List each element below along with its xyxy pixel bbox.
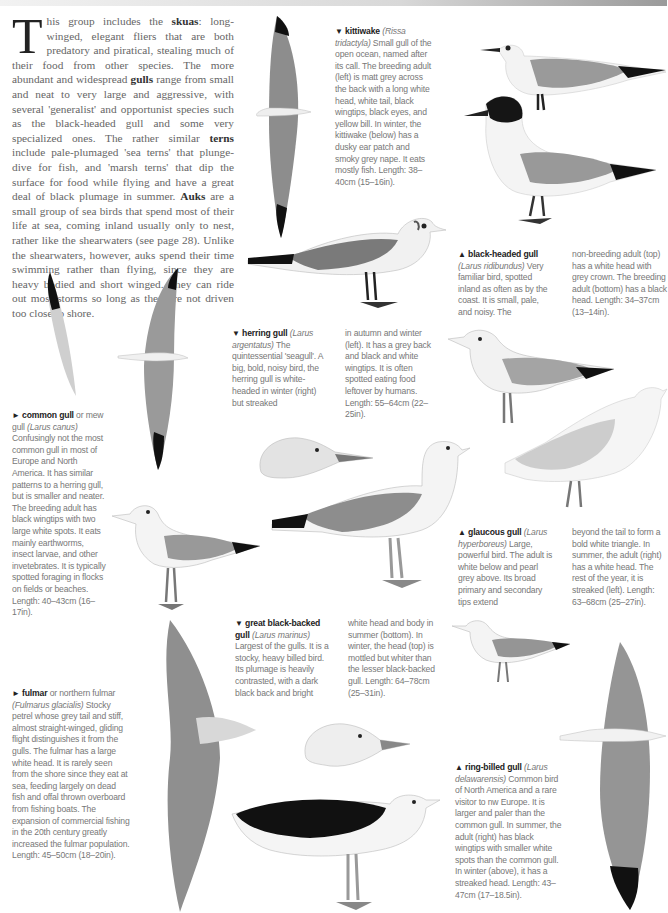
- species-name: herring gull: [242, 328, 287, 338]
- glaucous-gull-illustration: [505, 383, 667, 523]
- arrow-right-icon: ►: [12, 689, 20, 698]
- intro-term-terns: terns: [210, 132, 234, 144]
- species-description: Largest of the gulls. It is a stocky, he…: [235, 641, 329, 697]
- herring-gull-standing-illustration: [272, 434, 472, 594]
- arrow-up-icon: ▲: [458, 528, 466, 537]
- species-description: in autumn and winter (left). It has a gr…: [345, 328, 431, 419]
- arrow-up-icon: ▲: [458, 250, 466, 259]
- caption-glaucous-gull-col1: ▲ glaucous gull (Larus hyperboreus) Larg…: [458, 527, 553, 608]
- ring-billed-gull-flight-illustration: [560, 640, 667, 913]
- caption-black-headed-gull-col1: ▲ black-headed gull (Larus ridibundus) V…: [458, 249, 553, 319]
- species-name: fulmar: [22, 688, 47, 698]
- species-description: Confusingly not the most common gull in …: [12, 433, 106, 617]
- drop-cap: T: [12, 16, 43, 56]
- common-gull-flight-illustration: [40, 270, 90, 400]
- caption-great-black-backed-gull-col2: white head and body in summer (bottom). …: [348, 618, 436, 699]
- page-header-bar: [0, 0, 667, 6]
- alt-name: or northern fulmar: [47, 688, 115, 698]
- intro-term-auks: Auks: [180, 190, 205, 202]
- latin-name: (Larus ridibundus): [458, 261, 525, 271]
- species-description: non-breeding adult (top) has a white hea…: [572, 249, 667, 317]
- caption-great-black-backed-gull-col1: ▼ great black-backed gull (Larus marinus…: [235, 618, 330, 699]
- ring-billed-gull-standing-illustration: [452, 618, 572, 688]
- latin-name: (Fulmarus glacialis): [12, 700, 84, 710]
- species-description: Stocky petrel whose grey tail and stiff,…: [12, 700, 130, 861]
- species-description: Common bird of North America and a rare …: [455, 774, 561, 900]
- species-description: beyond the tail to form a bold white tri…: [572, 527, 661, 607]
- black-headed-gull-breeding-illustration: [460, 88, 660, 228]
- species-description: Small gull of the open ocean, named afte…: [335, 38, 431, 187]
- caption-herring-gull-col2: in autumn and winter (left). It has a gr…: [345, 328, 435, 421]
- kittiwake-winter-illustration: [248, 200, 448, 310]
- latin-name: (Larus marinus): [252, 630, 310, 640]
- caption-glaucous-gull-col2: beyond the tail to form a bold white tri…: [572, 527, 667, 608]
- caption-fulmar: ► fulmar or northern fulmar (Fulmarus gl…: [12, 688, 130, 862]
- latin-name: (Larus canus): [27, 422, 78, 432]
- caption-black-headed-gull-col2: non-breeding adult (top) has a white hea…: [572, 249, 667, 319]
- caption-kittiwake: ▼ kittiwake (Rissa tridactyla) Small gul…: [335, 26, 433, 188]
- caption-common-gull: ► common gull or mew gull (Larus canus) …: [12, 410, 107, 619]
- common-gull-standing-illustration: [112, 498, 262, 613]
- great-black-backed-gull-standing-illustration: [230, 790, 440, 913]
- arrow-up-icon: ▲: [455, 763, 463, 772]
- species-name: common gull: [22, 410, 74, 420]
- species-name: kittiwake: [345, 26, 380, 36]
- intro-term-gulls: gulls: [131, 73, 154, 85]
- caption-ring-billed-gull: ▲ ring-billed gull (Larus delawarensis) …: [455, 762, 565, 901]
- species-description: white head and body in summer (bottom). …: [348, 618, 435, 698]
- arrow-right-icon: ►: [12, 411, 20, 420]
- species-name: black-headed gull: [468, 249, 538, 259]
- great-black-backed-gull-head-illustration: [300, 718, 410, 770]
- intro-text: his group includes the: [47, 15, 172, 27]
- species-name: ring-billed gull: [465, 762, 522, 772]
- arrow-down-icon: ▼: [235, 619, 243, 628]
- caption-herring-gull-col1: ▼ herring gull (Larus argentatus) The qu…: [232, 328, 327, 409]
- herring-gull-flight-illustration: [118, 266, 188, 471]
- arrow-down-icon: ▼: [335, 27, 343, 36]
- arrow-down-icon: ▼: [232, 329, 240, 338]
- intro-term-skuas: skuas: [172, 15, 199, 27]
- species-name: glaucous gull: [468, 527, 521, 537]
